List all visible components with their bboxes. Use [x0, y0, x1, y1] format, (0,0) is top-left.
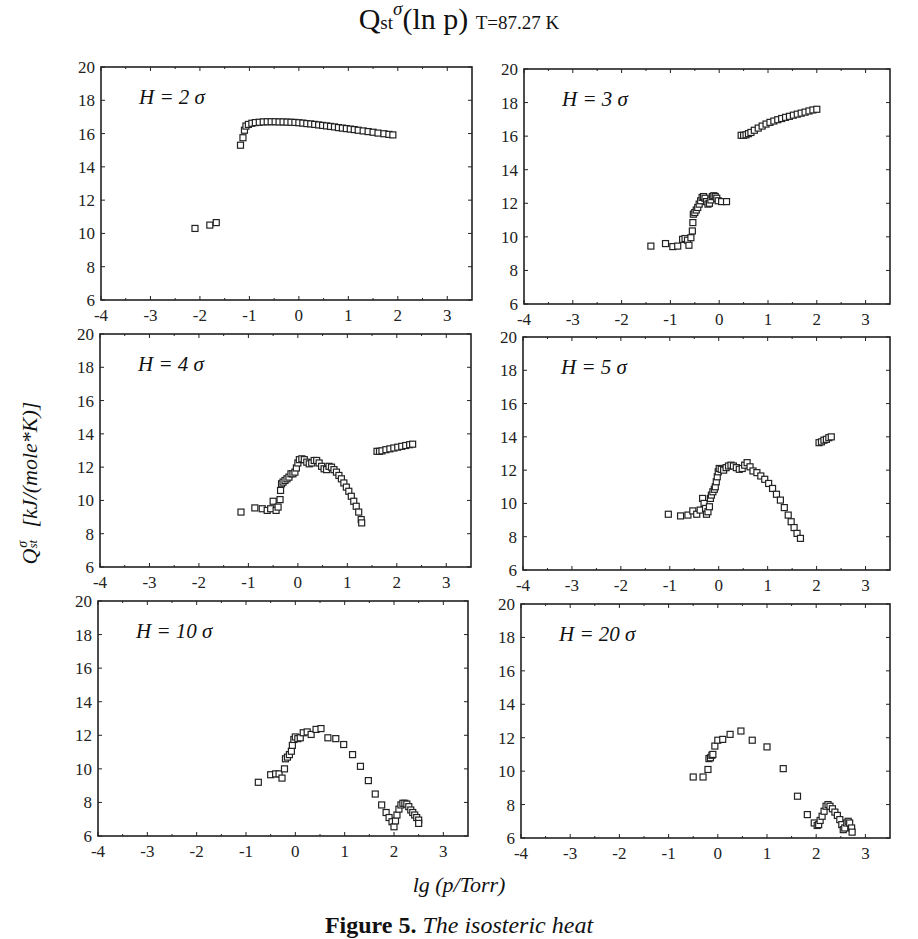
- y-axis-label: Qstσ [kJ/(mole*K)]: [17, 333, 43, 633]
- x-tick-label: 1: [764, 310, 773, 329]
- x-tick-label: -1: [663, 576, 677, 595]
- data-point-square: [390, 132, 396, 138]
- data-point-square: [277, 497, 283, 503]
- x-tick-label: 3: [442, 573, 451, 592]
- data-point-square: [365, 778, 371, 784]
- panel-top-left: -4-3-2-1012368101214161820H = 2 σ: [78, 58, 472, 325]
- x-tick-label: -3: [142, 573, 156, 592]
- data-point-square: [690, 220, 696, 226]
- x-tick-label: 2: [390, 842, 399, 861]
- y-tick-label: 18: [500, 361, 517, 380]
- data-point-square: [780, 766, 786, 772]
- y-tick-label: 16: [498, 662, 515, 681]
- figure-title: Qstσ(ln p) T=87.27 K: [0, 2, 918, 36]
- y-tick-label: 14: [500, 428, 518, 447]
- y-tick-label: 20: [501, 60, 518, 79]
- panel-bottom-right: -4-3-2-1012368101214161820H = 20 σ: [498, 595, 890, 863]
- y-tick-label: 8: [87, 258, 96, 277]
- y-tick-label: 12: [78, 191, 95, 210]
- x-tick-label: -2: [190, 842, 204, 861]
- x-tick-label: 2: [394, 306, 403, 325]
- y-tick-label: 10: [500, 494, 517, 513]
- data-point-square: [289, 742, 295, 748]
- data-point-square: [240, 135, 246, 141]
- data-point-square: [849, 829, 855, 835]
- data-point-square: [764, 744, 770, 750]
- y-tick-label: 10: [77, 491, 94, 510]
- data-point-square: [828, 434, 834, 440]
- data-point-square: [710, 751, 716, 757]
- y-tick-label: 18: [75, 626, 92, 645]
- data-point-square: [724, 199, 730, 205]
- data-point-square: [688, 235, 694, 241]
- x-tick-label: -3: [143, 306, 157, 325]
- data-point-square: [357, 763, 363, 769]
- data-point-square: [238, 509, 244, 515]
- data-point-square: [690, 774, 696, 780]
- data-point-square: [333, 736, 339, 742]
- data-point-square: [391, 824, 397, 830]
- y-tick-label: 6: [510, 295, 519, 314]
- x-tick-label: 0: [715, 310, 724, 329]
- title-q: Q: [359, 2, 381, 35]
- data-point-square: [788, 519, 794, 525]
- data-point-square: [416, 820, 422, 826]
- panel-title: H = 10 σ: [135, 619, 214, 643]
- y-tick-label: 8: [510, 261, 519, 280]
- x-tick-label: 2: [812, 844, 821, 863]
- y-tick-label: 8: [509, 528, 518, 547]
- data-point-square: [675, 243, 681, 249]
- data-point-square: [359, 520, 365, 526]
- data-point-square: [410, 441, 416, 447]
- y-tick-label: 8: [507, 796, 516, 815]
- y-tick-label: 14: [77, 425, 95, 444]
- data-point-square: [777, 497, 783, 503]
- data-point-square: [720, 736, 726, 742]
- panel-title: H = 20 σ: [558, 622, 637, 646]
- figure-caption: Figure 5. The isosteric heat: [0, 912, 918, 939]
- panel-middle-right: -4-3-2-1012368101214161820H = 5 σ: [500, 328, 890, 595]
- title-temperature: T=87.27 K: [476, 12, 560, 33]
- y-tick-label: 18: [498, 628, 515, 647]
- scatter-points: [255, 726, 421, 830]
- panel-bottom-left: -4-3-2-1012368101214161820H = 10 σ: [75, 592, 468, 861]
- x-tick-label: -4: [516, 576, 531, 595]
- x-tick-label: 2: [393, 573, 402, 592]
- y-tick-label: 14: [501, 161, 519, 180]
- data-point-square: [804, 812, 810, 818]
- data-point-square: [686, 242, 692, 248]
- y-tick-label: 12: [77, 458, 94, 477]
- data-point-square: [797, 535, 803, 541]
- y-tick-label: 12: [500, 461, 517, 480]
- x-tick-label: -4: [93, 573, 108, 592]
- x-tick-label: 3: [443, 306, 452, 325]
- x-tick-label: 2: [812, 576, 821, 595]
- y-tick-label: 10: [501, 228, 518, 247]
- x-tick-label: 3: [861, 844, 870, 863]
- x-tick-label: 3: [861, 576, 870, 595]
- y-tick-label: 16: [77, 392, 94, 411]
- title-rest: (ln p): [402, 2, 468, 35]
- data-point-square: [773, 491, 779, 497]
- x-tick-label: -1: [663, 310, 677, 329]
- x-tick-label: -1: [241, 573, 255, 592]
- data-point-square: [705, 766, 711, 772]
- x-tick-label: -3: [566, 310, 580, 329]
- data-point-square: [394, 812, 400, 818]
- x-tick-label: -2: [615, 310, 629, 329]
- data-point-square: [663, 241, 669, 247]
- panel-middle-left: -4-3-2-1012368101214161820H = 4 σ: [77, 325, 471, 592]
- x-tick-label: 1: [763, 844, 772, 863]
- data-point-square: [350, 752, 356, 758]
- x-tick-label: -4: [91, 842, 106, 861]
- y-tick-label: 18: [77, 358, 94, 377]
- scatter-points: [690, 728, 855, 835]
- data-point-square: [372, 791, 378, 797]
- panel-title: H = 5 σ: [560, 355, 629, 379]
- y-tick-label: 6: [86, 558, 95, 577]
- data-point-square: [738, 728, 744, 734]
- x-tick-label: -1: [242, 306, 256, 325]
- y-tick-label: 20: [77, 325, 94, 344]
- caption-label: Figure 5.: [325, 912, 417, 938]
- x-tick-label: 3: [861, 310, 870, 329]
